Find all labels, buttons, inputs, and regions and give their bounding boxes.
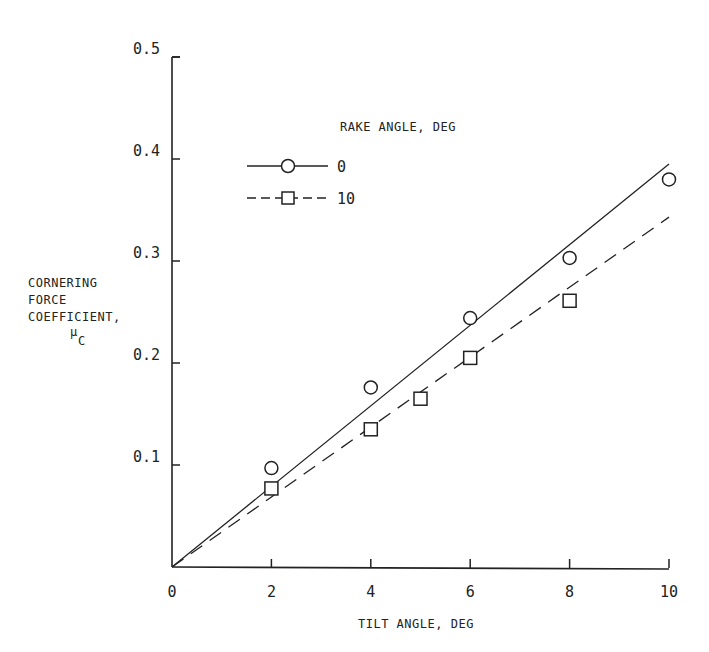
- data-point-square: [265, 482, 278, 495]
- x-axis: [172, 567, 669, 569]
- y-axis-title-line-3: COEFFICIENT,: [28, 310, 121, 324]
- x-tick-label: 2: [267, 583, 276, 601]
- chart: 02468100.10.20.30.40.5 TILT ANGLE, DEG C…: [0, 0, 709, 652]
- fit-line-series-0: [172, 164, 669, 567]
- x-tick-label: 10: [660, 583, 678, 601]
- data-point-circle: [364, 381, 377, 394]
- y-tick-label: 0.5: [133, 40, 160, 58]
- fit-lines: [172, 164, 669, 567]
- y-axis-title-subscript: C: [78, 334, 86, 348]
- legend-label-0: 0: [337, 158, 346, 176]
- y-tick-label: 0.2: [133, 346, 160, 364]
- data-point-square: [364, 423, 377, 436]
- legend-marker-circle: [282, 160, 295, 173]
- y-tick-label: 0.3: [133, 244, 160, 262]
- x-axis-title: TILT ANGLE, DEG: [358, 617, 474, 631]
- data-point-circle: [464, 312, 477, 325]
- y-axis-title-symbol: μ: [70, 325, 78, 339]
- y-axis-title: CORNERING FORCE COEFFICIENT, μ C: [28, 276, 121, 348]
- y-axis-title-line-1: CORNERING: [28, 276, 98, 290]
- data-point-circle: [265, 462, 278, 475]
- x-tick-label: 0: [167, 583, 176, 601]
- legend-label-10: 10: [337, 190, 355, 208]
- y-tick-label: 0.4: [133, 142, 160, 160]
- legend: RAKE ANGLE, DEG 0 10: [247, 120, 456, 208]
- x-tick-label: 8: [565, 583, 574, 601]
- data-point-square: [414, 392, 427, 405]
- x-tick-label: 6: [466, 583, 475, 601]
- data-point-square: [464, 351, 477, 364]
- x-tick-label: 4: [366, 583, 375, 601]
- y-axis-title-line-2: FORCE: [28, 293, 67, 307]
- markers: [265, 173, 676, 495]
- data-point-circle: [663, 173, 676, 186]
- y-tick-label: 0.1: [133, 448, 160, 466]
- data-point-square: [563, 294, 576, 307]
- data-point-circle: [563, 251, 576, 264]
- legend-marker-square: [282, 192, 294, 204]
- legend-title: RAKE ANGLE, DEG: [340, 120, 456, 134]
